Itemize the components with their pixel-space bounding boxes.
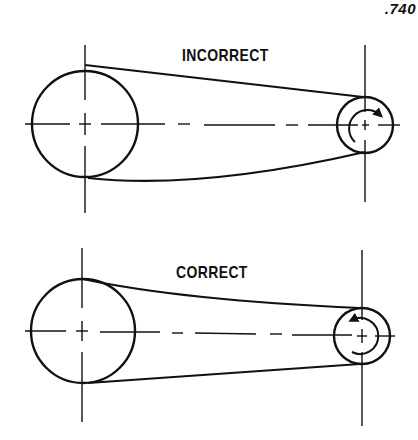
incorrect-label: INCORRECT: [182, 46, 269, 66]
correct-label: CORRECT: [176, 263, 248, 283]
page-number: .740: [385, 0, 416, 17]
belt-drive-diagram: .740 INCORRECT CORRECT: [0, 0, 418, 440]
belt-bottom-span: [88, 152, 365, 181]
incorrect-diagram: [25, 45, 400, 213]
belt-bottom-span: [88, 364, 360, 383]
belt-top-span: [83, 279, 360, 308]
